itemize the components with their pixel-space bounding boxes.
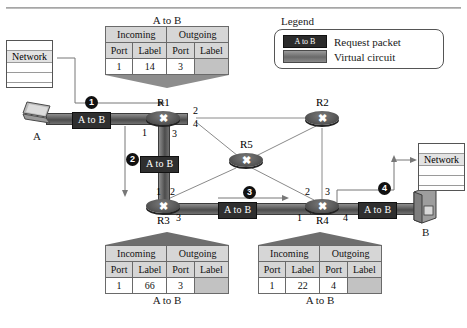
router-switch-icon: ✖ bbox=[314, 113, 330, 123]
forwarding-table-r4: Incoming Outgoing Port Label Port Label … bbox=[258, 232, 382, 306]
packet-chip-hop1: A to B bbox=[72, 112, 111, 129]
router-r3-port-3: 3 bbox=[176, 212, 181, 223]
packet-chip-hop3: A to B bbox=[218, 202, 257, 219]
header-in-label: Label bbox=[286, 262, 320, 278]
router-r4-label: R4 bbox=[316, 214, 329, 226]
forwarding-table-r4-pointer bbox=[258, 232, 382, 245]
header-outgoing: Outgoing bbox=[167, 246, 229, 262]
forwarding-table-r4-caption-bottom: A to B bbox=[258, 294, 382, 306]
header-outgoing: Outgoing bbox=[167, 27, 229, 43]
router-r1[interactable]: ✖ bbox=[146, 111, 180, 127]
network-right-label: Network bbox=[419, 154, 464, 166]
network-right-layer-3 bbox=[419, 176, 464, 186]
network-left-layer-1 bbox=[7, 41, 52, 51]
router-r5[interactable]: ✖ bbox=[229, 153, 263, 169]
table-row-group-header: Incoming Outgoing bbox=[259, 246, 382, 262]
header-in-label: Label bbox=[133, 262, 167, 278]
legend-item-virtual-circuit: Virtual circuit bbox=[283, 50, 395, 63]
host-a[interactable] bbox=[22, 100, 56, 126]
header-in-label: Label bbox=[133, 43, 167, 59]
network-left-layer-4 bbox=[7, 83, 52, 92]
cell-in-label: 66 bbox=[133, 278, 167, 294]
router-r1-port-2: 2 bbox=[193, 105, 198, 116]
network-right-layer-4 bbox=[419, 186, 464, 195]
table-row-column-header: Port Label Port Label bbox=[106, 262, 229, 278]
forwarding-table-r4-grid: Incoming Outgoing Port Label Port Label … bbox=[258, 245, 382, 294]
table-row-column-header: Port Label Port Label bbox=[259, 262, 382, 278]
router-r5-label: R5 bbox=[240, 138, 253, 150]
network-right-layer-1 bbox=[419, 144, 464, 154]
cell-out-port: 4 bbox=[320, 278, 347, 294]
router-r4-port-3: 3 bbox=[325, 186, 330, 197]
cell-out-label bbox=[194, 59, 228, 75]
router-r1-label: R1 bbox=[157, 96, 170, 108]
router-r2-label: R2 bbox=[316, 96, 329, 108]
router-switch-icon: ✖ bbox=[314, 201, 330, 211]
legend-label-request-packet: Request packet bbox=[334, 36, 401, 48]
header-outgoing: Outgoing bbox=[320, 246, 382, 262]
cell-out-label bbox=[347, 278, 381, 294]
router-r1-port-4: 4 bbox=[193, 118, 198, 129]
table-row: 1 66 3 bbox=[106, 278, 229, 294]
table-row: 1 22 4 bbox=[259, 278, 382, 294]
cell-in-label: 22 bbox=[286, 278, 320, 294]
router-switch-icon: ✖ bbox=[155, 113, 171, 123]
router-r1-port-3: 3 bbox=[172, 128, 177, 139]
header-incoming: Incoming bbox=[259, 246, 320, 262]
router-r4-port-1: 1 bbox=[297, 212, 302, 223]
router-r4[interactable]: ✖ bbox=[305, 199, 339, 215]
header-in-port: Port bbox=[259, 262, 286, 278]
header-out-port: Port bbox=[167, 43, 194, 59]
laptop-icon bbox=[22, 100, 56, 126]
legend-label-virtual-circuit: Virtual circuit bbox=[334, 51, 395, 63]
header-out-label: Label bbox=[194, 262, 228, 278]
diagram-canvas: ✖ R1 1 2 3 4 ✖ R2 ✖ R5 ✖ R3 1 2 3 ✖ R4 1… bbox=[0, 0, 467, 328]
host-a-label: A bbox=[33, 130, 41, 142]
packet-chip-hop2: A to B bbox=[140, 156, 179, 173]
network-left-layer-3 bbox=[7, 73, 52, 83]
table-row-group-header: Incoming Outgoing bbox=[106, 246, 229, 262]
host-b-label: B bbox=[422, 226, 429, 238]
cell-in-port: 1 bbox=[259, 278, 286, 294]
router-r3-port-2: 2 bbox=[170, 186, 175, 197]
cell-in-label: 14 bbox=[133, 59, 167, 75]
header-out-port: Port bbox=[320, 262, 347, 278]
forwarding-table-r3: Incoming Outgoing Port Label Port Label … bbox=[105, 232, 229, 306]
network-left[interactable]: Network bbox=[6, 40, 53, 88]
network-right[interactable]: Network bbox=[418, 143, 465, 191]
forwarding-table-r1-pointer bbox=[105, 75, 229, 88]
forwarding-table-r1: A to B Incoming Outgoing Port Label Port… bbox=[105, 14, 229, 88]
legend-item-request-packet: A to B Request packet bbox=[283, 35, 401, 48]
router-switch-icon: ✖ bbox=[155, 201, 171, 211]
cell-out-port: 3 bbox=[167, 278, 194, 294]
legend-box: A to B Request packet Virtual circuit bbox=[274, 29, 444, 69]
step-marker-4: 4 bbox=[378, 182, 391, 195]
step-marker-1: 1 bbox=[85, 96, 98, 109]
forwarding-table-r1-grid: Incoming Outgoing Port Label Port Label … bbox=[105, 26, 229, 75]
forwarding-table-r1-caption-top: A to B bbox=[105, 14, 229, 26]
router-r1-port-1: 1 bbox=[142, 127, 147, 138]
forwarding-table-r3-grid: Incoming Outgoing Port Label Port Label … bbox=[105, 245, 229, 294]
header-incoming: Incoming bbox=[106, 27, 167, 43]
router-r3[interactable]: ✖ bbox=[146, 199, 180, 215]
header-out-label: Label bbox=[347, 262, 381, 278]
legend-title: Legend bbox=[281, 15, 314, 27]
legend-swatch-request-packet: A to B bbox=[283, 35, 327, 48]
cell-out-label bbox=[194, 278, 228, 294]
header-in-port: Port bbox=[106, 43, 133, 59]
header-out-label: Label bbox=[194, 43, 228, 59]
header-incoming: Incoming bbox=[106, 246, 167, 262]
step-marker-2: 2 bbox=[126, 153, 139, 166]
cell-in-port: 1 bbox=[106, 59, 133, 75]
table-row-group-header: Incoming Outgoing bbox=[106, 27, 229, 43]
router-r4-port-4: 4 bbox=[343, 212, 348, 223]
cell-out-port: 3 bbox=[167, 59, 194, 75]
network-right-layer-2 bbox=[419, 166, 464, 176]
cell-in-port: 1 bbox=[106, 278, 133, 294]
router-switch-icon: ✖ bbox=[238, 155, 254, 165]
router-r2[interactable]: ✖ bbox=[305, 111, 339, 127]
router-r3-port-1: 1 bbox=[156, 186, 161, 197]
router-r4-port-2: 2 bbox=[305, 186, 310, 197]
network-left-label: Network bbox=[7, 51, 52, 63]
step-marker-3: 3 bbox=[243, 186, 256, 199]
